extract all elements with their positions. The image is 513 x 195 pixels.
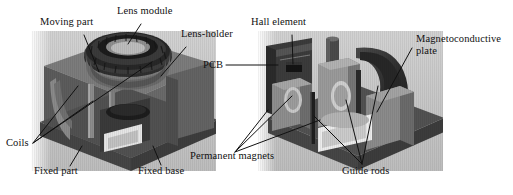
label-lens-module: Lens module <box>117 5 173 17</box>
label-guide-rods: Guide rods <box>342 165 389 177</box>
label-moving-part: Moving part <box>40 16 93 28</box>
label-fixed-base: Fixed base <box>138 165 184 177</box>
label-lens-holder: Lens-holder <box>181 28 233 40</box>
label-pcb: PCB <box>203 59 223 71</box>
label-magnetoconductive-plate: Magnetoconductive plate <box>416 33 508 56</box>
label-coils: Coils <box>6 137 29 149</box>
technical-figure: Moving part Lens module Lens-holder PCB … <box>0 0 513 195</box>
label-hall-element: Hall element <box>251 16 306 28</box>
label-permanent-magnets: Permanent magnets <box>190 150 274 162</box>
label-fixed-part: Fixed part <box>34 165 78 177</box>
